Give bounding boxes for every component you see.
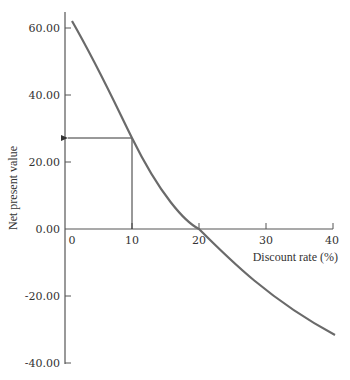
x-tick-label: 10 (125, 234, 139, 247)
y-axis-label: Net present value (6, 146, 20, 230)
x-axis-label: Discount rate (%) (253, 250, 338, 264)
y-tick-label: 0.00 (36, 223, 61, 236)
y-tick-label: 40.00 (29, 89, 61, 102)
x-tick-label: 0 (69, 234, 76, 247)
x-ticks (132, 223, 333, 229)
y-tick-label: -20.00 (25, 290, 60, 303)
npv-chart: 60.00 40.00 20.00 0.00 -20.00 -40.00 0 1… (0, 0, 350, 380)
y-ticks (65, 28, 71, 363)
y-tick-label: 60.00 (29, 22, 61, 35)
y-tick-label: 20.00 (29, 156, 61, 169)
y-tick-label: -40.00 (25, 357, 60, 370)
npv-curve (72, 21, 335, 335)
x-tick-label: 20 (192, 234, 206, 247)
x-tick-label: 30 (259, 234, 273, 247)
x-tick-label: 40 (325, 234, 339, 247)
